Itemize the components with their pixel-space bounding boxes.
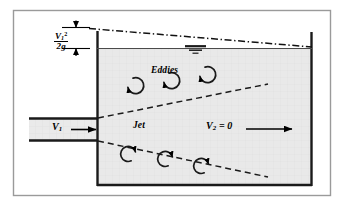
eddies-label: Eddies	[151, 66, 178, 76]
inlet-velocity-label: V1	[52, 122, 62, 133]
jet-label: Jet	[133, 121, 145, 131]
velocity-head-label: V12 2g	[54, 31, 68, 51]
velocity-head-fraction: V12 2g	[54, 31, 68, 51]
outlet-velocity-label: V2 = 0	[206, 121, 232, 132]
jet-expansion-diagram	[0, 0, 344, 206]
velocity-head-denominator: 2g	[54, 42, 68, 51]
water-body	[97, 48, 312, 186]
figure-container: V12 2g Eddies Jet V1 V2 = 0	[0, 0, 344, 206]
